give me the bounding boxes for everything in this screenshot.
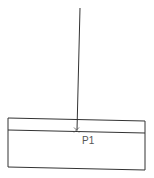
rectangle-outline (8, 118, 145, 170)
point-label: P1 (82, 135, 95, 146)
vertical-line (77, 8, 80, 130)
diagram-canvas: P1 (0, 0, 154, 178)
